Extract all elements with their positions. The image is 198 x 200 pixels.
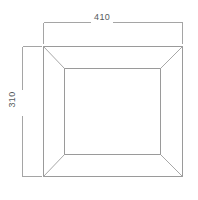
- bevel-face-right: [161, 47, 183, 177]
- frame-geometry-group: [44, 47, 183, 177]
- height-dimension-group: [23, 47, 42, 177]
- bevel-face-top: [44, 47, 183, 69]
- width-dimension-group: [44, 23, 183, 44]
- drawing-svg: [0, 0, 198, 200]
- technical-drawing-canvas: 410 310: [0, 0, 198, 200]
- height-dimension-label: 310: [5, 91, 20, 107]
- width-dimension-label: 410: [91, 13, 113, 22]
- bevel-face-left: [44, 47, 65, 177]
- inner-panel-face: [65, 69, 161, 155]
- bevel-face-bottom: [44, 155, 183, 177]
